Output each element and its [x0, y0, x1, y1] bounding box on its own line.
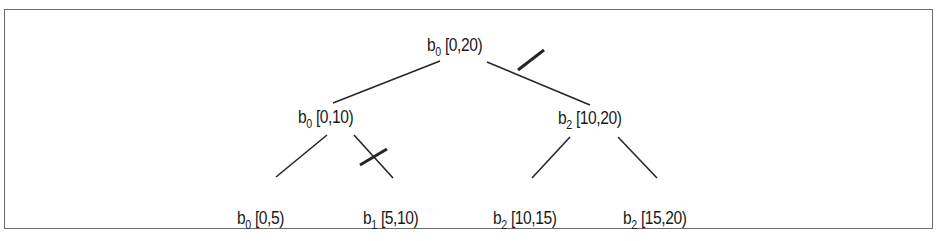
node-subscript: 2	[501, 217, 507, 232]
node-base: b	[493, 207, 501, 228]
node-subscript: 0	[435, 44, 441, 59]
node-subscript: 1	[371, 217, 377, 232]
node-subscript: 2	[631, 217, 637, 232]
node-range: [5,10)	[381, 207, 418, 228]
pruned-edge-mark-icon	[360, 149, 387, 165]
node-range: [0,20)	[445, 34, 482, 55]
node-base: b	[558, 107, 566, 128]
node-base: b	[363, 207, 371, 228]
node-range: [10,20)	[576, 107, 622, 128]
node-range: [0,10)	[316, 106, 353, 127]
tree-node-lr: b1[5,10)	[363, 208, 418, 227]
node-range: [10,15)	[511, 207, 557, 228]
tree-edge-root-l	[333, 61, 440, 103]
node-base: b	[427, 34, 435, 55]
tree-edge-r-rl	[532, 137, 570, 178]
node-subscript: 0	[306, 116, 312, 131]
node-subscript: 0	[245, 217, 251, 232]
node-base: b	[237, 207, 245, 228]
tree-node-r: b2[10,20)	[558, 108, 622, 127]
tree-node-rr: b2[15,20)	[623, 208, 687, 227]
tree-edge-r-rr	[618, 137, 657, 178]
pruned-edge-mark-icon	[518, 50, 544, 70]
node-base: b	[298, 106, 306, 127]
tree-node-root: b0[0,20)	[427, 35, 482, 54]
tree-edge-l-ll	[276, 135, 327, 177]
node-range: [15,20)	[641, 207, 687, 228]
tree-node-ll: b0[0,5)	[237, 208, 284, 227]
node-range: [0,5)	[255, 207, 284, 228]
tree-node-rl: b2[10,15)	[493, 208, 557, 227]
tree-node-l: b0[0,10)	[298, 107, 353, 126]
node-base: b	[623, 207, 631, 228]
node-subscript: 2	[566, 117, 572, 132]
tree-edge-root-r	[487, 62, 590, 105]
